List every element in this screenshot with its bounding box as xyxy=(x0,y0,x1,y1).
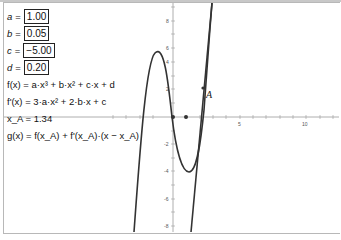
slider-name: c xyxy=(7,42,12,59)
slider-value-input[interactable]: 0.20 xyxy=(24,60,49,75)
root-point[interactable] xyxy=(171,115,175,119)
point-a[interactable] xyxy=(201,86,204,89)
slider-name: b xyxy=(7,25,12,42)
point-a-label: A xyxy=(205,89,213,100)
y-tick-label: -2 xyxy=(164,141,169,147)
f-definition[interactable]: f(x) = a·x³ + b·x² + c·x + d xyxy=(7,76,139,93)
algebra-panel: a= 1.00 b= 0.05 c= −5.00 d= 0.20 f(x) = … xyxy=(7,8,139,144)
slider-c[interactable]: c= −5.00 xyxy=(7,42,139,59)
slider-value-input[interactable]: 0.05 xyxy=(24,26,49,41)
y-tick-label: -8 xyxy=(164,223,169,229)
slider-name: d xyxy=(7,59,12,76)
g-definition[interactable]: g(x) = f(x_A) + f'(x_A)·(x − x_A) xyxy=(7,127,139,144)
x-a-value[interactable]: x_A = 1.34 xyxy=(7,110,139,127)
y-tick-label: 6 xyxy=(166,45,169,51)
slider-value-input[interactable]: 1.00 xyxy=(24,9,49,24)
slider-a[interactable]: a= 1.00 xyxy=(7,8,139,25)
y-tick-label: 8 xyxy=(166,18,169,24)
y-tick-label: 4 xyxy=(166,59,169,65)
slider-d[interactable]: d= 0.20 xyxy=(7,59,139,76)
f-prime-definition[interactable]: f'(x) = 3·a·x² + 2·b·x + c xyxy=(7,93,139,110)
slider-b[interactable]: b= 0.05 xyxy=(7,25,139,42)
tangent-line-g[interactable] xyxy=(191,3,212,232)
y-tick-label: -4 xyxy=(164,168,169,174)
y-tick-label: -6 xyxy=(164,196,169,202)
slider-value-input[interactable]: −5.00 xyxy=(23,43,54,58)
slider-name: a xyxy=(7,8,12,25)
x-tick-label: 5 xyxy=(238,121,241,127)
x-tick-label: 10 xyxy=(302,121,308,127)
x-a-point[interactable] xyxy=(184,115,188,119)
